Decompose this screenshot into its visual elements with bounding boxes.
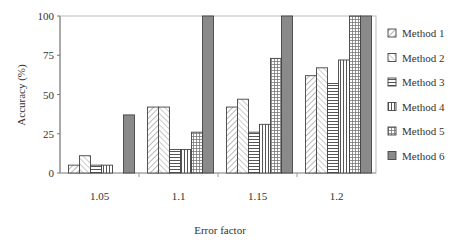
legend-swatch <box>388 78 396 86</box>
bar-method-2-1.1 <box>159 107 170 173</box>
bar-method-3-1.15 <box>249 132 260 173</box>
y-tick-label: 100 <box>38 10 55 22</box>
legend-swatch <box>388 127 396 135</box>
bar-method-2-1.2 <box>317 68 328 173</box>
legend: Method 1Method 2Method 3Method 4Method 5… <box>388 27 445 162</box>
legend-label: Method 5 <box>402 125 445 137</box>
bar-method-2-1.15 <box>238 99 249 173</box>
plot-area: 02550751001.051.11.151.2 <box>38 10 377 202</box>
bar-method-4-1.15 <box>260 124 271 173</box>
bar-method-1-1.2 <box>306 76 317 173</box>
legend-label: Method 6 <box>402 150 445 162</box>
bar-method-5-1.15 <box>271 58 282 173</box>
bar-method-2-1.05 <box>80 156 91 173</box>
legend-label: Method 1 <box>402 27 444 39</box>
chart-root: 02550751001.051.11.151.2 Method 1Method … <box>0 0 464 251</box>
x-tick-label: 1.05 <box>90 190 110 202</box>
bar-method-1-1.15 <box>227 107 238 173</box>
legend-swatch <box>388 152 396 160</box>
bar-method-3-1.1 <box>170 149 181 173</box>
legend-swatch <box>388 103 396 111</box>
y-axis-label: Accuracy (%) <box>15 64 28 126</box>
y-tick-label: 50 <box>43 89 55 101</box>
legend-label: Method 3 <box>402 76 445 88</box>
bar-method-1-1.1 <box>148 107 159 173</box>
y-tick-label: 0 <box>49 167 55 179</box>
bar-method-6-1.2 <box>361 16 372 173</box>
legend-label: Method 2 <box>402 52 444 64</box>
bar-method-5-1.2 <box>350 16 361 173</box>
y-tick-label: 75 <box>43 49 55 61</box>
bar-method-1-1.05 <box>69 165 80 173</box>
bar-method-3-1.2 <box>328 84 339 173</box>
x-axis-label: Error factor <box>194 224 246 236</box>
x-tick-label: 1.1 <box>172 190 186 202</box>
bar-method-6-1.05 <box>124 115 135 173</box>
x-tick-label: 1.15 <box>248 190 268 202</box>
legend-swatch <box>388 54 396 62</box>
legend-label: Method 4 <box>402 101 445 113</box>
bar-chart: 02550751001.051.11.151.2 Method 1Method … <box>0 0 464 251</box>
bar-method-4-1.05 <box>102 165 113 173</box>
y-tick-label: 25 <box>43 128 55 140</box>
bar-method-3-1.05 <box>91 165 102 173</box>
legend-swatch <box>388 29 396 37</box>
bar-method-6-1.15 <box>282 16 293 173</box>
x-tick-label: 1.2 <box>330 190 344 202</box>
bar-method-4-1.2 <box>339 60 350 173</box>
bar-method-4-1.1 <box>181 149 192 173</box>
bar-method-5-1.1 <box>192 132 203 173</box>
bar-method-6-1.1 <box>203 16 214 173</box>
